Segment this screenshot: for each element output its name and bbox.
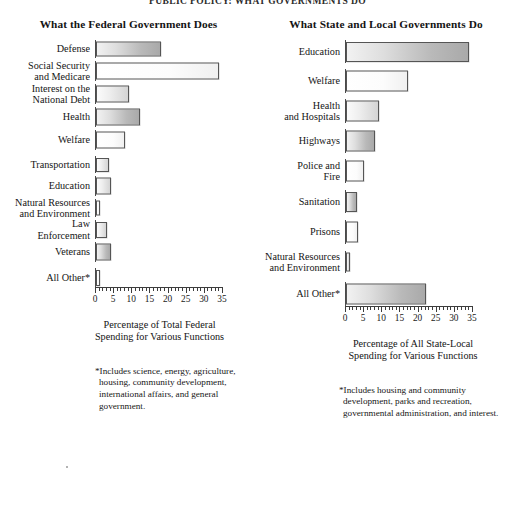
axis-tick-label: 30 [199,294,208,304]
axis-tick-minor [157,287,158,291]
axis-tick-label: 10 [127,294,136,304]
axis-tick-minor [171,287,172,291]
category-label: Transportation [0,159,95,170]
plot-area [345,129,515,153]
bar-rows-federal: DefenseSocial Securityand MedicareIntere… [0,40,257,287]
bar [96,270,100,286]
axis-tick-minor [164,287,165,291]
axis-tick-minor [428,306,429,310]
axis-tick-minor [110,287,111,291]
bar [346,161,364,182]
bar [96,178,111,195]
axis-tick-minor [218,287,219,291]
category-label: Social Securityand Medicare [0,60,95,83]
plot-area [345,220,515,244]
axis-tick-minor [407,306,408,310]
bar-row: Natural Resourcesand Environment [0,199,257,217]
x-axis-federal: 05101520253035 [0,287,257,303]
bar [96,244,111,261]
axis-tick-minor [414,306,415,310]
axis-tick-minor [124,287,125,291]
axis-tick-minor [106,287,107,291]
bar-row: Interest on theNational Debt [0,84,257,104]
panel-federal: What the Federal Government Does Defense… [0,18,257,488]
panel-title-state-local: What State and Local Governments Do [257,18,515,30]
axis-tick-minor [378,306,379,310]
axis-tick-minor [450,306,451,310]
category-label: Veterans [0,246,95,257]
axis-tick-minor [457,306,458,310]
x-axis-state-local: 05101520253035 [257,306,515,322]
axis-tick-label: 35 [467,313,476,323]
plot-area [95,156,257,173]
bar-row: LawEnforcement [0,220,257,239]
category-label: Natural Resourcesand Environment [0,197,95,220]
axis-tick-major [418,306,419,312]
axis-tick-label: 5 [361,313,366,323]
axis-tick-minor [421,306,422,310]
bar [96,109,140,126]
category-label: LawEnforcement [0,218,95,241]
panel-state-local: What State and Local Governments Do Educ… [257,18,515,488]
axis-tick-major [363,306,364,312]
bar-row: Police andFire [257,159,515,183]
axis-tick-major [204,287,205,293]
axis-tick-major [222,287,223,293]
bar [346,284,426,305]
plot-area [95,268,257,287]
category-label: Interest on theNational Debt [0,83,95,106]
chart-federal: DefenseSocial Securityand MedicareIntere… [0,40,257,412]
axis-tick-minor [432,306,433,310]
axis-tick-minor [374,306,375,310]
axis-tick-label: 25 [181,294,190,304]
bar-row: Sanitation [257,190,515,213]
bar [96,201,100,216]
bar-row: Health [0,107,257,127]
plot-area [345,282,515,306]
plot-area [95,107,257,127]
axis-tick-minor [367,306,368,310]
category-label: Highways [257,135,345,146]
axis-tick-minor [370,306,371,310]
axis-tick-major [186,287,187,293]
axis-tick-minor [461,306,462,310]
axis-tick-label: 15 [145,294,154,304]
plot-area [95,61,257,81]
axis-tick-minor [403,306,404,310]
axis-tick-major [381,306,382,312]
plot-area [95,84,257,104]
bar [346,71,408,92]
bar-row: Healthand Hospitals [257,99,515,123]
category-label: Defense [0,43,95,54]
axis-tick-minor [200,287,201,291]
axis-tick-major [345,306,346,312]
axis-tick-minor [352,306,353,310]
category-label: All Other* [0,272,95,283]
bar-row: Education [0,176,257,196]
bar [96,42,161,57]
axis-tick-minor [99,287,100,291]
plot-area [95,199,257,217]
axis-tick-label: 35 [217,294,226,304]
bar [346,131,375,152]
axis-title-federal: Percentage of Total FederalSpending for … [72,319,247,344]
bar [346,42,469,62]
bar [346,192,357,212]
category-label: Sanitation [257,196,345,207]
axis-tick-major [472,306,473,312]
axis-tick-minor [443,306,444,310]
axis-tick-label: 30 [449,313,458,323]
panel-title-federal: What the Federal Government Does [0,18,257,30]
axis-tick-minor [360,306,361,310]
bar-row: All Other* [0,268,257,287]
bar-rows-state-local: EducationWelfareHealthand HospitalsHighw… [257,40,515,306]
axis-tick-minor [193,287,194,291]
axis-tick-minor [182,287,183,291]
bar [346,222,358,243]
footnote-state-local: *Includes housing and community developm… [339,385,507,420]
axis-tick-minor [389,306,390,310]
axis-tick-minor [356,306,357,310]
plot-area [95,242,257,262]
running-head: PUBLIC POLICY: WHAT GOVERNMENTS DO [0,0,515,6]
category-label: Police andFire [257,160,345,183]
